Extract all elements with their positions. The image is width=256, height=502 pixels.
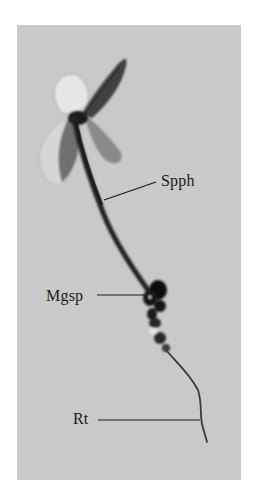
leaf-pale-upper [54,74,88,114]
seedling-specimen-illustration [0,0,256,502]
gall-cluster [143,280,170,352]
root [166,350,207,442]
leaf-right-lower [86,116,121,163]
leaf-upright-dark [82,59,127,118]
leaf-node [68,111,88,125]
label-rt: Rt [73,411,89,427]
label-spph: Spph [161,173,195,189]
leader-line-spph [104,182,156,200]
label-mgsp: Mgsp [46,288,83,304]
